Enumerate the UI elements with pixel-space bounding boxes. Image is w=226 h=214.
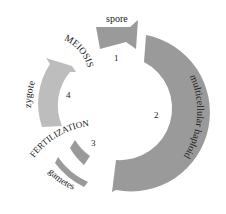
zygote-label: zygote bbox=[22, 79, 37, 108]
spore-label: spore bbox=[106, 13, 128, 24]
stage-3-number: 3 bbox=[91, 138, 96, 148]
stage-4-number: 4 bbox=[66, 90, 71, 100]
gametes-segment-upper bbox=[70, 140, 90, 165]
stage-2-number: 2 bbox=[154, 110, 159, 120]
meiosis-label: MEIOSIS bbox=[63, 33, 95, 69]
stage-1-number: 1 bbox=[114, 53, 119, 63]
spore-segment bbox=[96, 20, 138, 49]
life-cycle-diagram: spore 1 multicellular haploid 2 3 gamete… bbox=[0, 0, 226, 214]
